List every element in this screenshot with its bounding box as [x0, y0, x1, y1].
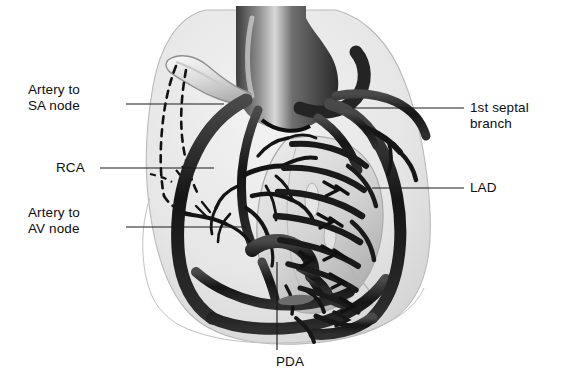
label-lad: LAD: [470, 180, 497, 196]
label-rca: RCA: [56, 160, 85, 176]
figure-canvas: Artery to SA node RCA Artery to AV node …: [0, 0, 561, 389]
label-1st-septal-branch: 1st septal branch: [470, 100, 529, 132]
label-pda: PDA: [276, 354, 304, 370]
label-artery-to-av-node: Artery to AV node: [28, 205, 80, 237]
label-artery-to-sa-node: Artery to SA node: [28, 82, 80, 114]
